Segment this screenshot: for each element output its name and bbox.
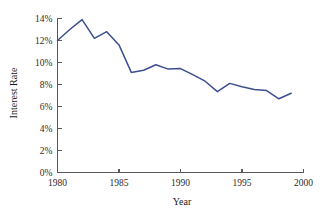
y-tick-label: 6% [40,102,53,112]
y-tick-label: 0% [40,168,53,178]
y-tick-label: 10% [35,58,53,68]
x-tick-label: 1985 [110,178,129,188]
x-tick-label: 1990 [171,178,190,188]
x-tick-label: 2000 [294,178,313,188]
y-tick-label: 8% [40,80,53,90]
x-tick-group: 19801985199019952000 [48,169,313,188]
interest-rate-series-line [58,20,292,99]
chart-page: 0%2%4%6%8%10%12%14% 19801985199019952000… [0,0,330,212]
y-axis-group: 0%2%4%6%8%10%12%14% [35,14,61,178]
y-axis-title: Interest Rate [8,67,19,118]
y-tick-label: 4% [40,124,53,134]
x-axis-group: 19801985199019952000 [48,169,313,188]
interest-rate-line-chart: 0%2%4%6%8%10%12%14% 19801985199019952000… [0,0,330,212]
y-tick-label: 12% [35,36,53,46]
x-tick-label: 1980 [48,178,67,188]
x-tick-label: 1995 [233,178,252,188]
x-axis-title: Year [173,196,192,207]
y-tick-label: 2% [40,146,53,156]
y-tick-label: 14% [35,14,53,24]
